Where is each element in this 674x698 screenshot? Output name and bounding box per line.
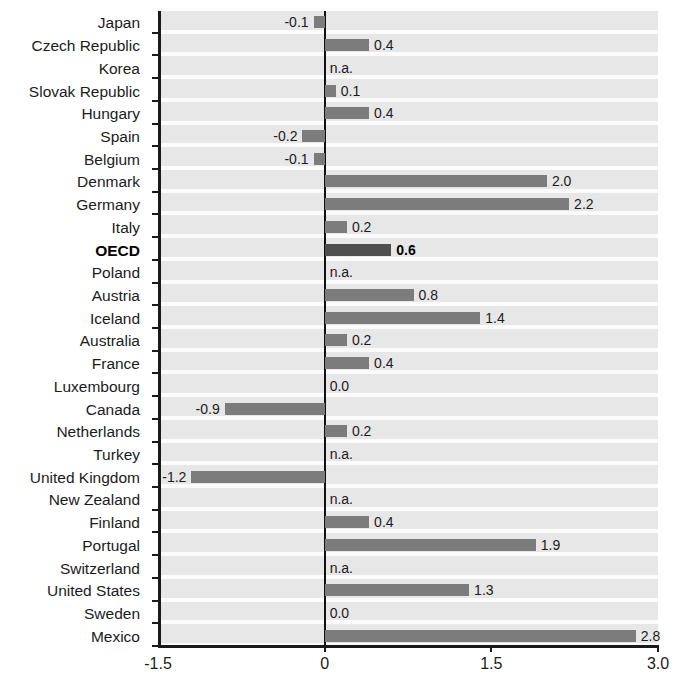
y-axis-tick	[152, 236, 161, 238]
row-band	[158, 56, 658, 75]
row-band	[158, 215, 658, 234]
value-label: 0.2	[352, 333, 371, 347]
category-label: Japan	[0, 15, 140, 31]
y-axis-line	[158, 11, 161, 647]
bar	[191, 471, 324, 483]
y-axis-tick	[152, 32, 161, 34]
value-label: -0.9	[196, 402, 220, 416]
category-label: Iceland	[0, 311, 140, 327]
x-axis-line	[158, 645, 658, 648]
y-axis-tick	[152, 463, 161, 465]
y-axis-tick	[152, 168, 161, 170]
category-label: Denmark	[0, 174, 140, 190]
row-band	[158, 374, 658, 393]
x-axis-tick-label: 0	[285, 656, 365, 672]
y-axis-tick	[152, 554, 161, 556]
category-label: Australia	[0, 333, 140, 349]
category-label: Hungary	[0, 106, 140, 122]
row-band	[158, 511, 658, 530]
category-label: New Zealand	[0, 492, 140, 508]
y-axis-tick	[152, 441, 161, 443]
y-axis-tick	[152, 54, 161, 56]
category-label: Portugal	[0, 538, 140, 554]
bar	[225, 403, 325, 415]
y-axis-tick	[152, 395, 161, 397]
category-label: Mexico	[0, 629, 140, 645]
row-band	[158, 147, 658, 166]
row-band	[158, 261, 658, 280]
bar	[314, 153, 325, 165]
category-label: OECD	[0, 243, 140, 259]
value-label: 0.4	[374, 106, 393, 120]
row-band	[158, 79, 658, 98]
category-label: Sweden	[0, 606, 140, 622]
value-label: -0.1	[284, 152, 308, 166]
category-label: Belgium	[0, 152, 140, 168]
x-axis-tick-label: -1.5	[118, 656, 198, 672]
value-label: 0.0	[330, 379, 349, 393]
value-label: n.a.	[330, 447, 353, 461]
value-label: n.a.	[330, 61, 353, 75]
y-axis-tick	[152, 259, 161, 261]
category-label: Netherlands	[0, 424, 140, 440]
value-label: 0.4	[374, 515, 393, 529]
y-axis-tick	[152, 304, 161, 306]
row-band	[158, 602, 658, 621]
y-axis-tick	[152, 486, 161, 488]
bar	[325, 425, 347, 437]
plot-area	[158, 11, 658, 647]
value-label: 2.0	[552, 174, 571, 188]
category-label: Luxembourg	[0, 379, 140, 395]
value-label: n.a.	[330, 561, 353, 575]
y-axis-tick	[152, 622, 161, 624]
value-label: 0.6	[396, 243, 415, 257]
y-axis-tick	[152, 645, 161, 647]
value-label: 0.2	[352, 220, 371, 234]
category-label: Korea	[0, 61, 140, 77]
category-label: Canada	[0, 402, 140, 418]
bar	[325, 539, 536, 551]
category-label: Poland	[0, 265, 140, 281]
y-axis-tick	[152, 282, 161, 284]
y-axis-tick	[152, 418, 161, 420]
x-axis-tick	[657, 645, 659, 652]
category-label: Austria	[0, 288, 140, 304]
bar	[325, 516, 369, 528]
y-axis-tick	[152, 350, 161, 352]
category-label: Turkey	[0, 447, 140, 463]
category-label: United States	[0, 583, 140, 599]
bar	[325, 630, 636, 642]
bar	[325, 244, 392, 256]
value-label: 0.2	[352, 424, 371, 438]
bar	[325, 85, 336, 97]
bar	[314, 16, 325, 28]
value-label: -0.1	[284, 15, 308, 29]
value-label: 1.9	[541, 538, 560, 552]
y-axis-tick	[152, 123, 161, 125]
y-axis-tick	[152, 600, 161, 602]
row-band	[158, 443, 658, 462]
category-axis-labels: JapanCzech RepublicKoreaSlovak RepublicH…	[0, 11, 145, 647]
value-label: 0.1	[341, 84, 360, 98]
bar	[325, 357, 369, 369]
y-axis-tick	[152, 77, 161, 79]
category-label: Switzerland	[0, 561, 140, 577]
value-label: 1.3	[474, 583, 493, 597]
bar	[325, 584, 469, 596]
row-band	[158, 11, 658, 30]
value-label: 0.4	[374, 356, 393, 370]
bar	[325, 289, 414, 301]
category-label: United Kingdom	[0, 470, 140, 486]
value-label: 0.0	[330, 606, 349, 620]
value-label: 1.4	[485, 311, 504, 325]
bar	[325, 198, 569, 210]
y-axis-tick	[152, 145, 161, 147]
row-band	[158, 125, 658, 144]
category-label: Finland	[0, 515, 140, 531]
row-band	[158, 34, 658, 53]
value-label: 0.4	[374, 38, 393, 52]
bar	[302, 130, 324, 142]
category-label: Slovak Republic	[0, 84, 140, 100]
y-axis-tick	[152, 372, 161, 374]
